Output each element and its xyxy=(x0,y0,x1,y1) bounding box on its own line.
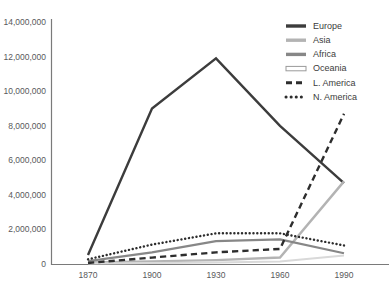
y-tick-label: 8,000,000 xyxy=(8,121,46,131)
y-tick-label: 14,000,000 xyxy=(3,17,46,27)
y-tick-label: 12,000,000 xyxy=(3,52,46,62)
legend-item-n-america[interactable]: N. America xyxy=(286,92,357,102)
x-tick-label: 1990 xyxy=(335,270,354,280)
y-axis-tick-labels: 14,000,000 12,000,000 10,000,000 8,000,0… xyxy=(3,17,46,269)
line-chart: 14,000,000 12,000,000 10,000,000 8,000,0… xyxy=(0,0,391,290)
legend-swatch-outline xyxy=(286,66,306,70)
y-tick-label: 4,000,000 xyxy=(8,190,46,200)
legend-item-europe[interactable]: Europe xyxy=(286,21,342,31)
legend-label: L. America xyxy=(313,78,356,88)
legend-item-asia[interactable]: Asia xyxy=(286,35,331,45)
x-tick-label: 1870 xyxy=(79,270,98,280)
y-tick-label: 2,000,000 xyxy=(8,224,46,234)
legend-item-l-america[interactable]: L. America xyxy=(286,78,356,88)
legend-label: Oceania xyxy=(313,63,347,73)
legend-label: Africa xyxy=(313,49,336,59)
x-tick-label: 1900 xyxy=(143,270,162,280)
legend-label: Asia xyxy=(313,35,331,45)
legend-item-africa[interactable]: Africa xyxy=(286,49,336,59)
data-series-layer xyxy=(88,58,344,263)
x-axis-tick-labels: 1870 1900 1930 1960 1990 xyxy=(79,270,354,280)
legend-item-oceania[interactable]: Oceania xyxy=(286,63,347,73)
axis-lines xyxy=(52,19,390,265)
legend-label: N. America xyxy=(313,92,357,102)
chart-container: 14,000,000 12,000,000 10,000,000 8,000,0… xyxy=(0,0,391,290)
y-tick-label: 10,000,000 xyxy=(3,86,46,96)
chart-legend: EuropeAsiaAfricaOceaniaL. AmericaN. Amer… xyxy=(286,21,357,102)
x-tick-label: 1960 xyxy=(271,270,290,280)
x-tick-label: 1930 xyxy=(207,270,226,280)
y-tick-label: 0 xyxy=(41,259,46,269)
legend-label: Europe xyxy=(313,21,342,31)
y-tick-label: 6,000,000 xyxy=(8,155,46,165)
